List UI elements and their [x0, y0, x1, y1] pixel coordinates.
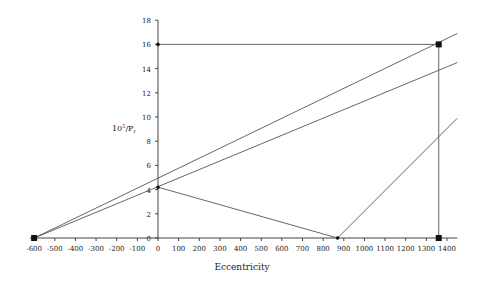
x-tick-label: 1200	[397, 245, 415, 253]
x-tick-label: 1400	[438, 245, 456, 253]
y-tick-label: 6	[147, 162, 152, 170]
x-tick-label: 600	[275, 245, 288, 253]
x-tick-label: 800	[316, 245, 329, 253]
square-marker	[31, 235, 37, 241]
x-tick-label: -100	[129, 245, 145, 253]
square-marker	[436, 235, 442, 241]
dot-marker	[336, 236, 340, 240]
y-tick-label: 2	[147, 211, 151, 219]
x-tick-label: -200	[109, 245, 125, 253]
x-tick-label: 200	[193, 245, 206, 253]
y-tick-label: 18	[142, 17, 151, 25]
y-tick-label: 10	[142, 114, 151, 122]
x-tick-label: 100	[172, 245, 185, 253]
y-tick-label: 8	[147, 138, 151, 146]
v-line-right	[338, 118, 458, 238]
axes: -600-500-400-300-200-1000100200300400500…	[26, 17, 457, 253]
x-tick-label: -400	[68, 245, 84, 253]
y-axis-label: 105/Pr	[112, 123, 136, 134]
x-tick-label: 1300	[417, 245, 435, 253]
v-line-left	[158, 187, 338, 238]
upper-line	[34, 34, 457, 238]
y-tick-label: 16	[142, 41, 151, 49]
y-tick-label: 0	[147, 235, 151, 243]
square-marker	[436, 41, 442, 47]
x-tick-label: 1100	[376, 245, 394, 253]
x-axis-label: Eccentricity	[214, 262, 270, 272]
x-tick-label: -500	[47, 245, 63, 253]
markers	[31, 41, 442, 241]
dot-marker	[156, 185, 160, 189]
x-tick-label: -300	[88, 245, 104, 253]
dot-marker	[156, 43, 160, 47]
chart: -600-500-400-300-200-1000100200300400500…	[0, 0, 484, 282]
y-tick-label: 14	[142, 66, 151, 74]
x-tick-label: 1000	[356, 245, 374, 253]
x-tick-label: 400	[234, 245, 247, 253]
x-tick-label: 0	[156, 245, 160, 253]
x-tick-label: 500	[255, 245, 268, 253]
y-tick-label: 12	[142, 90, 151, 98]
x-tick-label: -600	[26, 245, 42, 253]
x-tick-label: 900	[337, 245, 350, 253]
x-tick-label: 700	[296, 245, 309, 253]
x-tick-label: 300	[213, 245, 226, 253]
series-lines	[34, 34, 457, 238]
